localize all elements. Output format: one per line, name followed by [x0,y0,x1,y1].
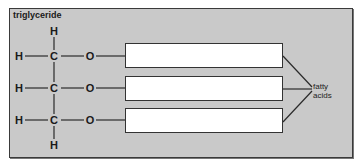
hydrogen-top: H [50,26,58,37]
hydrogen-row1: H [15,51,23,62]
hydrogen-bottom: H [50,140,58,151]
fatty-acid-box-3 [125,108,283,133]
carbon-row3: C [50,115,58,126]
carbon-row2: C [50,83,58,94]
carbon-row1: C [50,51,58,62]
hydrogen-row3: H [15,115,23,126]
label-line-1: fatty [313,82,332,91]
oxygen-row1: O [86,51,95,62]
oxygen-row3: O [86,115,95,126]
fatty-acid-box-1 [125,43,283,68]
oxygen-row2: O [86,83,95,94]
hydrogen-row2: H [15,83,23,94]
fatty-acids-label: fatty acids [313,82,332,100]
fatty-acid-box-2 [125,76,283,101]
label-line-2: acids [313,91,332,100]
